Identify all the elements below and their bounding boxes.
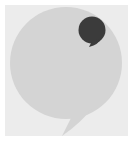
chat-bubbles-icon xyxy=(0,0,133,148)
large-speech-bubble-icon xyxy=(10,7,122,136)
